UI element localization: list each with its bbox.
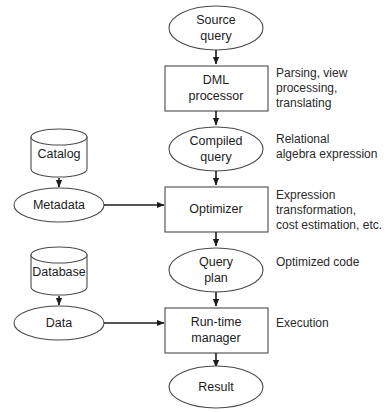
annotation-compiled-query-line2: algebra expression [276, 147, 377, 161]
source-query-label-line2: query [200, 29, 232, 43]
annotation-optimizer-line3: cost estimation, etc. [276, 218, 382, 232]
annotation-query-plan: Optimized code [276, 255, 360, 269]
optimizer-label: Optimizer [189, 202, 242, 216]
diagram-canvas: Source query DML processor Compiled quer… [0, 0, 390, 412]
source-query-label-line1: Source [196, 13, 236, 27]
runtime-manager-label-line1: Run-time [191, 315, 242, 329]
annotation-dml-processor-line3: translating [276, 96, 331, 110]
query-plan-label-line1: Query [199, 255, 234, 269]
runtime-manager-label-line2: manager [191, 331, 240, 345]
query-plan-label-line2: plan [204, 271, 228, 285]
result-label: Result [198, 380, 234, 394]
annotation-optimizer-line1: Expression [276, 188, 335, 202]
compiled-query-label-line2: query [200, 150, 232, 164]
node-data: Data [14, 306, 104, 340]
annotation-dml-processor-line1: Parsing, view [276, 66, 348, 80]
node-metadata: Metadata [14, 188, 104, 222]
database-label: Database [32, 265, 86, 279]
annotation-compiled-query-line1: Relational [276, 132, 329, 146]
compiled-query-label-line1: Compiled [190, 134, 243, 148]
annotation-dml-processor-line2: processing, [276, 81, 337, 95]
query-processing-diagram: Source query DML processor Compiled quer… [0, 0, 390, 412]
metadata-label: Metadata [33, 198, 85, 212]
annotation-compiled-query: Relational algebra expression [276, 132, 377, 161]
node-runtime-manager: Run-time manager [165, 308, 268, 353]
node-dml-processor: DML processor [165, 66, 268, 111]
annotation-runtime-manager-line1: Execution [276, 316, 329, 330]
database-cylinder-top [31, 247, 87, 263]
annotation-dml-processor: Parsing, view processing, translating [276, 66, 348, 110]
catalog-label: Catalog [37, 147, 80, 161]
node-catalog: Catalog [31, 129, 87, 177]
node-result: Result [169, 366, 263, 408]
data-label: Data [46, 316, 72, 330]
dml-processor-label-line1: DML [203, 73, 229, 87]
annotation-optimizer: Expression transformation, cost estimati… [276, 188, 382, 232]
node-database: Database [31, 247, 87, 295]
catalog-cylinder-top [31, 129, 87, 145]
annotation-query-plan-line1: Optimized code [276, 255, 360, 269]
dml-processor-label-line2: processor [189, 89, 244, 103]
annotation-optimizer-line2: transformation, [276, 203, 356, 217]
annotation-runtime-manager: Execution [276, 316, 329, 330]
node-compiled-query: Compiled query [169, 127, 263, 171]
node-optimizer: Optimizer [165, 187, 268, 232]
node-query-plan: Query plan [169, 248, 263, 292]
node-source-query: Source query [169, 6, 263, 50]
